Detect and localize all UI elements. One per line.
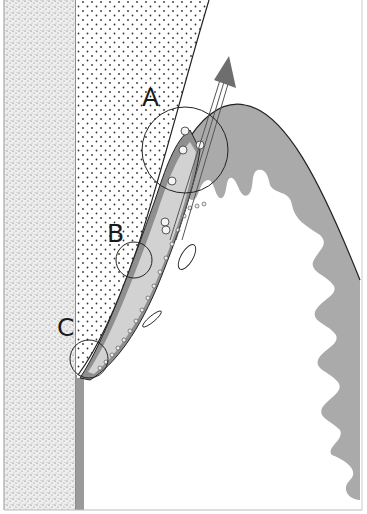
label-a: A	[142, 83, 159, 112]
gray-wall-strip	[76, 378, 84, 510]
stippled-region	[4, 0, 76, 510]
gray-tissue	[183, 104, 360, 500]
cell-cluster	[175, 242, 199, 272]
diagram-canvas: A B C	[0, 0, 367, 514]
label-c: C	[57, 313, 74, 342]
label-b: B	[107, 219, 124, 248]
